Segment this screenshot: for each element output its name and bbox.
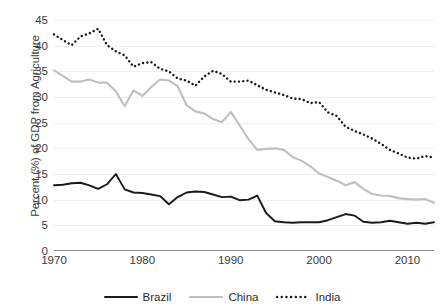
data-series-group — [54, 20, 434, 251]
y-axis-tick-label: 15 — [18, 168, 48, 180]
y-axis-tick-label: 35 — [18, 65, 48, 77]
series-line-brazil — [54, 174, 434, 224]
y-axis-tick-label: 40 — [18, 40, 48, 52]
legend-swatch-brazil — [104, 292, 138, 302]
x-axis-tick-label: 2000 — [306, 254, 332, 266]
y-axis-tick-label: 20 — [18, 142, 48, 154]
x-axis-tick-label: 1970 — [41, 254, 67, 266]
x-axis-tick-label: 1990 — [218, 254, 244, 266]
legend-item-brazil[interactable]: Brazil — [104, 291, 172, 303]
chart-legend: BrazilChinaIndia — [0, 291, 444, 303]
x-axis-tick-label: 1980 — [130, 254, 156, 266]
legend-label-china: China — [228, 291, 258, 303]
y-axis-tick-label: 5 — [18, 219, 48, 231]
series-line-china — [54, 70, 434, 202]
y-axis-tick-label: 30 — [18, 91, 48, 103]
plot-area: 051015202530354045 19701980199020002010 — [54, 20, 434, 251]
y-axis-tick-label: 25 — [18, 117, 48, 129]
series-line-india — [54, 29, 434, 159]
legend-item-india[interactable]: India — [276, 291, 340, 303]
legend-label-brazil: Brazil — [143, 291, 172, 303]
agriculture-gdp-line-chart: Percent (%) of GDP from Agriculture 0510… — [0, 0, 444, 307]
legend-item-china[interactable]: China — [189, 291, 258, 303]
legend-swatch-india — [276, 292, 310, 302]
y-axis-tick-label: 45 — [18, 14, 48, 26]
y-axis-tick-label: 10 — [18, 194, 48, 206]
legend-swatch-china — [189, 292, 223, 302]
x-axis-tick-label: 2010 — [395, 254, 421, 266]
legend-label-india: India — [315, 291, 340, 303]
